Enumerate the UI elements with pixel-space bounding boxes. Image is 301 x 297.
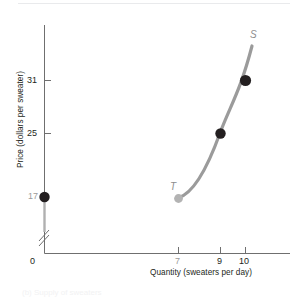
figure-caption: (b) Supply of sweaters (22, 288, 102, 297)
y-tick-marks (45, 81, 52, 134)
y-tick-label-0: 0 (30, 256, 35, 266)
y-tick-label-17: 17 (28, 191, 38, 201)
x-tick-label-7: 7 (175, 256, 180, 266)
x-axis-title: Quantity (sweaters per day) (150, 268, 252, 277)
y-axis-title: Price (dollars per sweater) (16, 55, 25, 185)
y-tick-label-25: 25 (27, 128, 37, 138)
supply-curve-S (178, 46, 252, 198)
data-point-price-17 (39, 192, 49, 202)
data-point-T (174, 194, 183, 203)
y-tick-label-31: 31 (27, 75, 37, 85)
curve-label-S: S (250, 29, 257, 40)
x-tick-label-9: 9 (217, 256, 222, 266)
curve-label-T: T (170, 181, 176, 192)
x-tick-label-10: 10 (239, 256, 249, 266)
x-tick-marks (179, 247, 246, 254)
data-point-31 (240, 75, 251, 86)
data-point-25 (215, 128, 225, 138)
